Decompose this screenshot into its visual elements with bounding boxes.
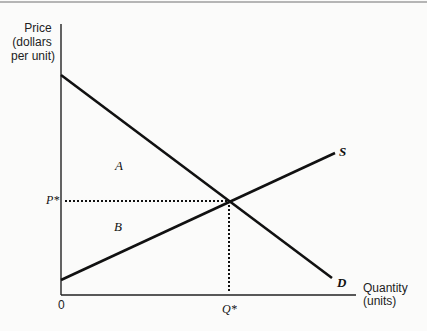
equilibrium-price-label: P* [45, 193, 59, 207]
demand-curve [61, 75, 332, 278]
demand-label: D [336, 275, 347, 290]
supply-demand-diagram: Price (dollars per unit) Quantity (units… [0, 0, 427, 331]
region-b-label: B [114, 219, 122, 234]
y-axis-label: Price (dollars per unit) [11, 21, 55, 63]
supply-curve [61, 153, 335, 280]
equilibrium-quantity-label: Q* [222, 302, 237, 316]
x-axis-label: Quantity (units) [363, 281, 411, 308]
region-a-label: A [114, 158, 123, 173]
supply-label: S [339, 144, 346, 159]
diagram-canvas: Price (dollars per unit) Quantity (units… [0, 0, 427, 331]
origin-label: 0 [58, 298, 65, 312]
